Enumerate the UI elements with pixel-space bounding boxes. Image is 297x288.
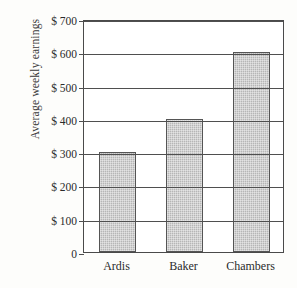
y-tick-label-300: $ 300 [51,148,77,160]
gridline [84,221,283,222]
y-tick-label-600: $ 600 [51,48,77,60]
bar-chart-figure: Average weekly earnings $ 700 $ 600 $ 50… [0,0,297,288]
bar-chambers [233,52,271,252]
y-tick-label-400: $ 400 [51,115,77,127]
gridline [84,154,283,155]
gridline [84,21,283,22]
gridline [84,54,283,55]
y-tick-label-700: $ 700 [51,15,77,27]
y-tick-label-0: 0 [71,248,77,260]
y-tick-label-500: $ 500 [51,82,77,94]
y-tick-label-100: $ 100 [51,215,77,227]
bar-ardis [99,152,137,252]
gridline [84,121,283,122]
x-axis-label-ardis: Ardis [83,259,150,274]
x-axis-label-chambers: Chambers [217,259,284,274]
gridline [84,88,283,89]
plot-area: $ 700 $ 600 $ 500 $ 400 $ 300 $ 200 [83,20,284,253]
x-axis-label-baker: Baker [150,259,217,274]
gridline [84,187,283,188]
y-tick-label-200: $ 200 [51,181,77,193]
bar-baker [166,119,204,252]
y-tick-mark [79,254,84,255]
y-axis-title: Average weekly earnings [29,0,47,179]
